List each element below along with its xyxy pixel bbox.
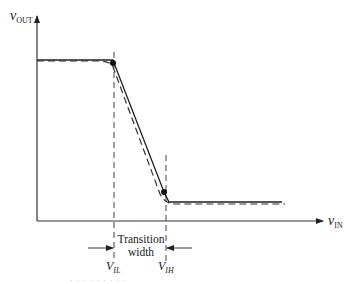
transition-label-line1: Transition — [117, 233, 165, 246]
x-axis-label: vIN — [328, 213, 343, 230]
transition-label-line2: width — [117, 246, 165, 259]
vih-point — [161, 189, 167, 195]
cropped-caption-text: · · · · · · · · · — [70, 276, 127, 284]
transition-width-label: Transition width — [117, 233, 165, 259]
vil-subscript: IL — [113, 266, 120, 275]
transfer-characteristic-plot — [0, 0, 357, 284]
vih-subscript: IH — [165, 266, 173, 275]
vil-label: VIL — [106, 259, 120, 275]
solid-transfer-curve — [37, 60, 282, 202]
y-axis-subscript: OUT — [16, 16, 32, 25]
vih-label: VIH — [158, 259, 174, 275]
vil-point — [110, 60, 116, 66]
x-axis-subscript: IN — [334, 221, 342, 230]
y-axis-label: vOUT — [10, 8, 33, 25]
